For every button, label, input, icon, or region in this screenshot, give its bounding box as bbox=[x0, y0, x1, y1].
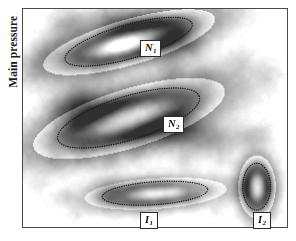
feature-label-i1-sub: 1 bbox=[149, 219, 153, 227]
y-axis-label: Main pressure bbox=[8, 0, 20, 112]
feature-label-n2: N2 bbox=[163, 116, 184, 133]
feature-label-i2-sub: 2 bbox=[262, 219, 266, 227]
feature-label-n1-sub: 1 bbox=[153, 47, 157, 55]
density-figure: Main pressure N1 N2 I1 I2 bbox=[0, 0, 296, 241]
feature-label-n1: N1 bbox=[140, 40, 161, 57]
feature-label-n1-main: N bbox=[145, 42, 153, 53]
feature-label-i1: I1 bbox=[140, 212, 158, 229]
feature-label-i2: I2 bbox=[253, 212, 271, 229]
feature-label-n2-main: N bbox=[168, 118, 176, 129]
feature-label-n2-sub: 2 bbox=[176, 123, 180, 131]
